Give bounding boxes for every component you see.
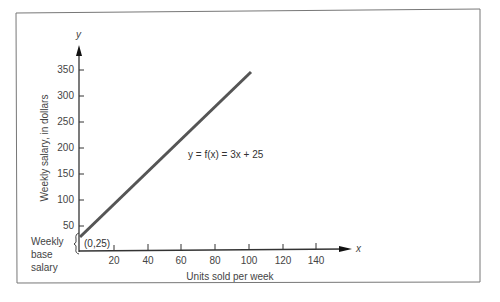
x-axis-arrow-icon [339,246,352,252]
chart-svg: y x 50 100 150 200 250 300 350 20 40 60 … [0,0,500,302]
y-axis-symbol: y [75,29,82,40]
y-tick-label: 50 [63,220,75,231]
x-axis-label: Units sold per week [186,271,274,282]
y-tick-label: 150 [57,168,74,179]
y-tick-label: 250 [57,116,74,127]
brace-icon [74,233,79,254]
base-salary-line: base [31,249,53,260]
y-ticks: 50 100 150 200 250 300 350 [57,64,84,231]
x-tick-label: 80 [209,255,221,266]
x-tick-label: 100 [241,255,258,266]
base-salary-line: salary [31,262,58,273]
x-axis-symbol: x [355,243,362,254]
equation-label: y = f(x) = 3x + 25 [188,149,264,160]
base-salary-label: Weekly base salary [31,236,64,273]
y-axis-arrow-icon [76,45,82,56]
x-ticks: 20 40 60 80 100 120 140 [108,243,324,266]
y-tick-label: 300 [57,90,74,101]
y-tick-label: 100 [57,194,74,205]
x-axis [79,249,345,251]
x-tick-label: 20 [108,255,120,266]
x-tick-label: 60 [175,255,187,266]
y-tick-label: 200 [57,142,74,153]
x-tick-label: 40 [142,255,154,266]
x-tick-label: 140 [308,255,325,266]
intercept-label: (0,25) [84,238,110,249]
x-tick-label: 120 [275,255,292,266]
base-salary-line: Weekly [31,236,64,247]
y-tick-label: 350 [57,64,74,75]
y-axis-label: Weekly salary, in dollars [39,95,50,202]
